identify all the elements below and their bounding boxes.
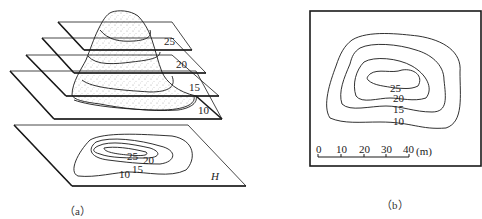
figure-b: 25 20 15 10 0 10 20 30 40 (m) （b） <box>310 11 481 211</box>
caption-a: （a） <box>64 205 91 217</box>
plane-label-25: 25 <box>164 35 176 47</box>
scale-tick-0: 0 <box>316 143 322 155</box>
proj-label-20: 20 <box>143 154 155 166</box>
proj-label-15: 15 <box>132 163 144 175</box>
plane-label-10: 10 <box>198 104 210 116</box>
scale-tick-20: 20 <box>359 143 371 155</box>
proj-label-25: 25 <box>127 150 139 162</box>
contour-label-10: 10 <box>393 115 405 127</box>
scale-tick-30: 30 <box>381 143 393 155</box>
plane-h-label: H <box>210 170 220 182</box>
scale-tick-10: 10 <box>336 143 348 155</box>
contour-diagram: 25 20 15 10 25 20 15 10 H （a） 25 20 <box>0 0 482 219</box>
scale-bar: 0 10 20 30 40 (m) <box>316 143 432 158</box>
figure-a: 25 20 15 10 25 20 15 10 H （a） <box>10 11 246 217</box>
caption-b: （b） <box>381 199 409 211</box>
scale-unit: (m) <box>416 145 432 158</box>
plane-label-20: 20 <box>176 58 188 70</box>
scale-tick-40: 40 <box>403 143 415 155</box>
proj-label-10: 10 <box>119 168 131 180</box>
projection-plane-h: 25 20 15 10 H <box>14 125 246 186</box>
proj-contour-25 <box>104 147 147 155</box>
plane-label-15: 15 <box>189 81 201 93</box>
contour-label-15: 15 <box>393 103 405 115</box>
